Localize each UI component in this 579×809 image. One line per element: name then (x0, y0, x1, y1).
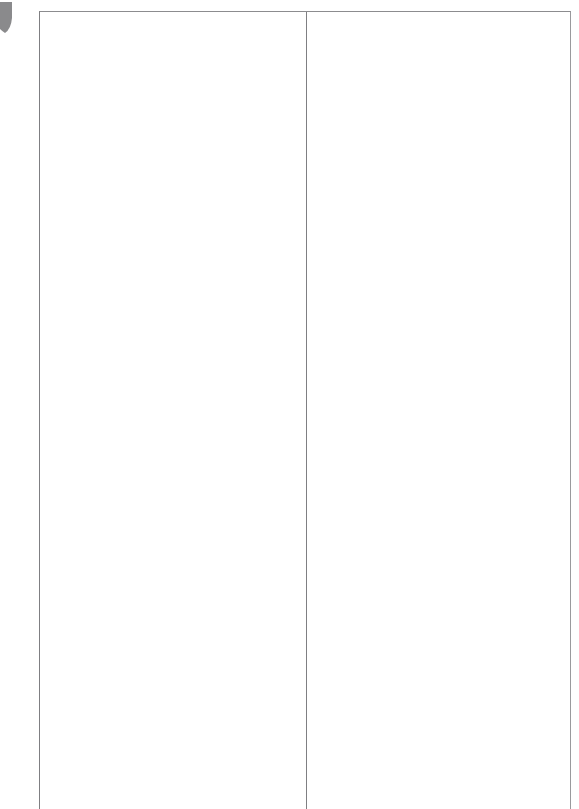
left-column-text (40, 12, 306, 25)
document-page (0, 0, 579, 809)
table-cell-left-column (40, 12, 307, 809)
two-column-layout-table (39, 11, 571, 809)
table-cell-right-column (307, 12, 571, 809)
right-column-text (307, 12, 571, 25)
cut-off-shape-fragment-icon (0, 2, 14, 34)
